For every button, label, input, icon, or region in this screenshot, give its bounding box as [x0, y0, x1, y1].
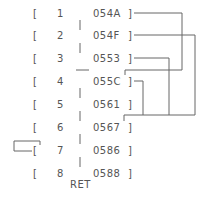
row-address: 0561 [93, 99, 120, 111]
row-address: 054A [93, 8, 121, 20]
close-bracket: ] [128, 99, 132, 111]
row-address: 0567 [93, 122, 120, 134]
row-index: 4 [57, 76, 64, 88]
row-index: 2 [57, 30, 64, 42]
close-bracket: ] [128, 8, 132, 20]
open-bracket: [ [33, 76, 37, 88]
row-address: 0553 [93, 53, 120, 65]
close-bracket: ] [128, 122, 132, 134]
row-index: 6 [57, 122, 64, 134]
close-bracket: ] [128, 53, 132, 65]
close-bracket: ] [128, 76, 132, 88]
open-bracket: [ [33, 53, 37, 65]
row-address: 0586 [93, 145, 120, 157]
row-address: 054F [93, 30, 120, 42]
row-index: 3 [57, 53, 64, 65]
open-bracket: [ [33, 145, 37, 157]
close-bracket: ] [128, 168, 132, 180]
open-bracket: [ [33, 8, 37, 20]
row-address: 0588 [93, 168, 120, 180]
row-index: 5 [57, 99, 64, 111]
open-bracket: [ [33, 30, 37, 42]
ret-label: RET [70, 179, 91, 191]
row-address: 055C [93, 76, 121, 88]
row-index: 8 [57, 168, 64, 180]
close-bracket: ] [128, 145, 132, 157]
open-bracket: [ [33, 122, 37, 134]
row-index: 7 [57, 145, 64, 157]
row-index: 1 [57, 8, 64, 20]
close-bracket: ] [128, 30, 132, 42]
open-bracket: [ [33, 168, 37, 180]
open-bracket: [ [33, 99, 37, 111]
